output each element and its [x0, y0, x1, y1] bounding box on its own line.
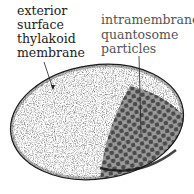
label-line: intramembrane	[101, 13, 194, 28]
label-line: particles	[101, 42, 194, 57]
label-line: membrane	[17, 46, 85, 60]
quantosome-label: intramembrane quantosome particles	[101, 13, 194, 57]
label-line: thylakoid	[17, 32, 85, 46]
exterior-surface-label: exterior surface thylakoid membrane	[17, 4, 85, 60]
label-line: surface	[17, 18, 85, 32]
label-line: quantosome	[101, 28, 194, 43]
label-line: exterior	[17, 4, 85, 18]
